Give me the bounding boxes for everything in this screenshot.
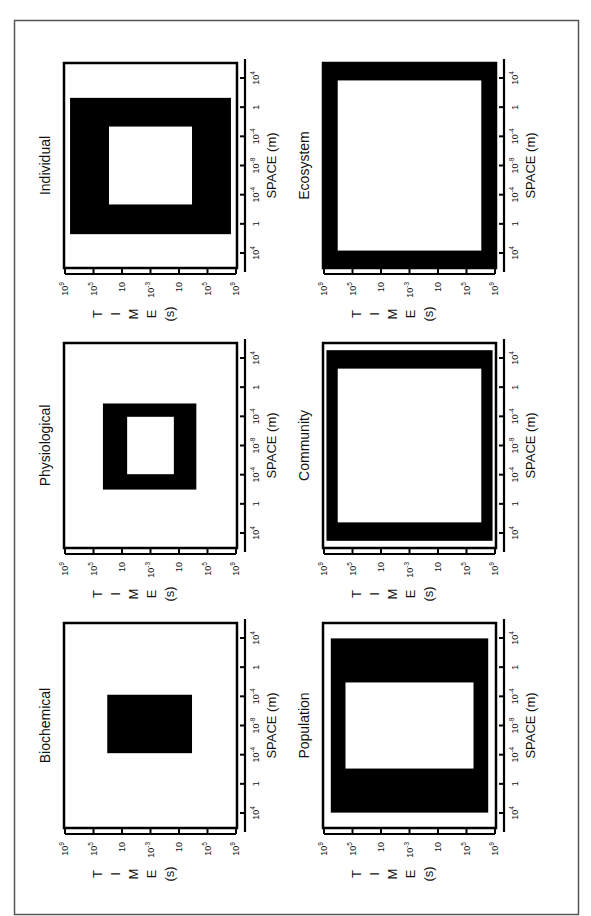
panel-title: Individual xyxy=(37,136,53,195)
space-tick-label: 1 xyxy=(251,665,261,670)
space-axis-label: SPACE (m) xyxy=(523,412,538,478)
panel-title: Community xyxy=(296,410,312,481)
space-tick-label: 1 xyxy=(251,105,261,110)
time-tick-label: 10 xyxy=(433,282,443,292)
space-tick-label: 1 xyxy=(510,781,520,786)
time-tick-label: 10 xyxy=(117,282,127,292)
panel-title: Ecosystem xyxy=(296,131,312,199)
panel-title: Physiological xyxy=(37,405,53,487)
time-axis-label: (s) xyxy=(421,306,436,321)
time-tick-label: 10 xyxy=(433,842,443,852)
time-axis-label: (s) xyxy=(162,306,177,321)
time-axis-label: M xyxy=(385,589,400,600)
space-tick-label: 1 xyxy=(510,105,520,110)
time-axis-label: E xyxy=(144,589,159,598)
time-axis-label: E xyxy=(144,869,159,878)
time-axis-label: E xyxy=(403,309,418,318)
time-axis-label: M xyxy=(385,309,400,320)
scale-core xyxy=(338,80,482,250)
time-axis-label: I xyxy=(367,312,382,316)
space-tick-label: 1 xyxy=(251,221,261,226)
time-axis-label: (s) xyxy=(162,586,177,601)
time-tick-label: 10 xyxy=(376,842,386,852)
time-tick-label: 10 xyxy=(433,562,443,572)
time-tick-label: 10 xyxy=(174,282,184,292)
space-tick-label: 1 xyxy=(510,221,520,226)
scale-band xyxy=(107,695,192,753)
space-tick-label: 1 xyxy=(510,501,520,506)
time-axis-label: T xyxy=(90,310,105,318)
time-axis-label: T xyxy=(349,310,364,318)
time-axis-label: E xyxy=(144,309,159,318)
space-tick-label: 1 xyxy=(251,781,261,786)
time-axis-label: T xyxy=(349,590,364,598)
space-tick-label: 1 xyxy=(510,385,520,390)
time-axis-label: M xyxy=(126,869,141,880)
time-axis-label: T xyxy=(349,870,364,878)
space-tick-label: 1 xyxy=(251,501,261,506)
time-tick-label: 10 xyxy=(117,842,127,852)
figure-svg: Individual1091051010-310105109TIME(s)104… xyxy=(0,0,591,916)
time-axis-label: I xyxy=(108,872,123,876)
time-axis-label: E xyxy=(403,589,418,598)
space-tick-label: 1 xyxy=(510,665,520,670)
space-axis-label: SPACE (m) xyxy=(523,692,538,758)
space-axis-label: SPACE (m) xyxy=(523,132,538,198)
time-axis-label: (s) xyxy=(162,866,177,881)
panel-title: Population xyxy=(296,692,312,758)
panel-title: Biochemical xyxy=(37,688,53,763)
time-axis-label: M xyxy=(126,589,141,600)
scale-core xyxy=(345,682,473,768)
space-axis-label: SPACE (m) xyxy=(264,132,279,198)
time-axis-label: M xyxy=(385,869,400,880)
time-axis-label: T xyxy=(90,870,105,878)
time-axis-label: I xyxy=(367,872,382,876)
time-axis-label: I xyxy=(367,592,382,596)
time-axis-label: T xyxy=(90,590,105,598)
time-axis-label: E xyxy=(403,869,418,878)
time-axis-label: I xyxy=(108,312,123,316)
time-axis-label: (s) xyxy=(421,586,436,601)
space-tick-label: 1 xyxy=(251,385,261,390)
time-axis-label: (s) xyxy=(421,866,436,881)
time-tick-label: 10 xyxy=(376,282,386,292)
scale-core xyxy=(338,369,482,523)
scale-core xyxy=(109,127,192,205)
scale-core xyxy=(127,417,174,474)
time-axis-label: I xyxy=(108,592,123,596)
time-tick-label: 10 xyxy=(174,562,184,572)
time-tick-label: 10 xyxy=(117,562,127,572)
time-tick-label: 10 xyxy=(376,562,386,572)
time-tick-label: 10 xyxy=(174,842,184,852)
space-axis-label: SPACE (m) xyxy=(264,692,279,758)
time-axis-label: M xyxy=(126,309,141,320)
space-axis-label: SPACE (m) xyxy=(264,412,279,478)
